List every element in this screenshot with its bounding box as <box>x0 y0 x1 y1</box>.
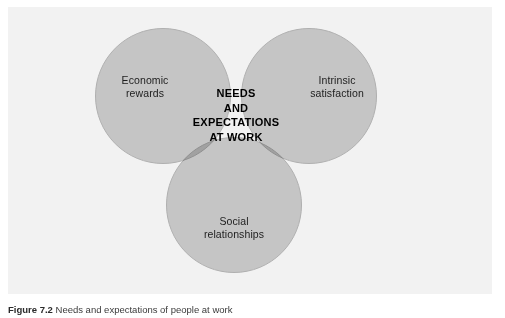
figure-caption: Figure 7.2 Needs and expectations of peo… <box>8 304 498 316</box>
caption-number: Figure 7.2 <box>8 304 53 315</box>
venn-labels-layer: Economic rewards Intrinsic satisfaction … <box>8 7 492 294</box>
diagram-panel: Economic rewards Intrinsic satisfaction … <box>8 7 492 294</box>
venn-label-economic-rewards: Economic rewards <box>103 74 187 100</box>
venn-center-label-needs-and-expectations-at-work: NEEDS AND EXPECTATIONS AT WORK <box>190 86 282 144</box>
venn-label-social-relationships: Social relationships <box>192 215 276 241</box>
venn-label-intrinsic-satisfaction: Intrinsic satisfaction <box>295 74 379 100</box>
figure-container: Economic rewards Intrinsic satisfaction … <box>0 0 505 318</box>
caption-text: Needs and expectations of people at work <box>56 304 233 315</box>
